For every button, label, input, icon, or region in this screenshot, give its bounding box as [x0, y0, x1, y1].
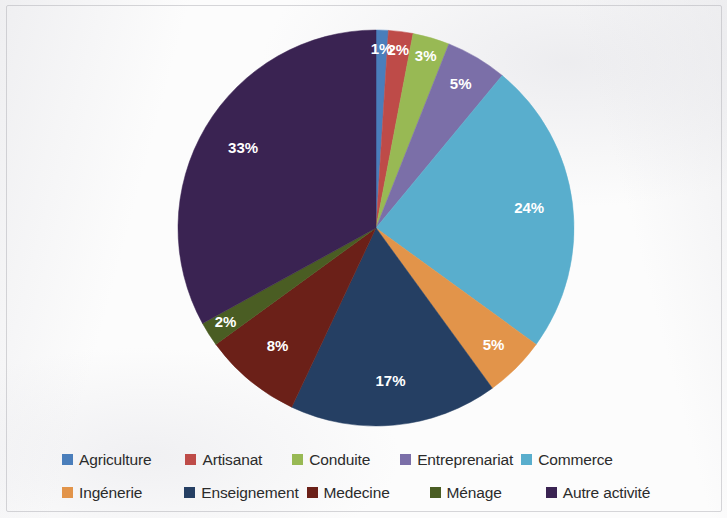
legend-swatch-icon [184, 487, 195, 498]
pie-data-label: 24% [514, 199, 544, 216]
legend-label: Ménage [447, 484, 502, 502]
legend-label: Medecine [324, 484, 390, 502]
legend-item-entreprenariat[interactable]: Entreprenariat [400, 451, 513, 469]
legend-item-enseignement[interactable]: Enseignement [184, 484, 298, 502]
legend-label: Agriculture [79, 451, 151, 469]
legend-item-menage[interactable]: Ménage [430, 484, 502, 502]
legend-item-conduite[interactable]: Conduite [292, 451, 370, 469]
legend-row: Agriculture Artisanat Conduite Entrepren… [0, 443, 727, 476]
pie-chart-area: 1%2%3%5%24%5%17%8%2%33% [0, 0, 727, 440]
legend-label: Autre activité [563, 484, 651, 502]
pie-chart-svg: 1%2%3%5%24%5%17%8%2%33% [0, 0, 727, 440]
pie-data-label: 5% [450, 75, 472, 92]
legend-row: Ingénerie Enseignement Medecine Ménage A… [0, 476, 727, 509]
pie-data-label: 3% [415, 47, 437, 64]
legend-swatch-icon [185, 454, 196, 465]
legend-label: Commerce [538, 451, 613, 469]
legend-item-commerce[interactable]: Commerce [521, 451, 613, 469]
legend-swatch-icon [62, 454, 73, 465]
legend-swatch-icon [400, 454, 411, 465]
pie-data-label: 2% [387, 41, 409, 58]
chart-legend: Agriculture Artisanat Conduite Entrepren… [0, 443, 727, 518]
legend-label: Enseignement [201, 484, 298, 502]
legend-label: Artisanat [202, 451, 262, 469]
pie-slice-group [178, 30, 574, 426]
legend-item-ingenerie[interactable]: Ingénerie [62, 484, 142, 502]
legend-swatch-icon [292, 454, 303, 465]
legend-label: Ingénerie [79, 484, 142, 502]
legend-swatch-icon [62, 487, 73, 498]
pie-data-label: 33% [228, 139, 258, 156]
legend-swatch-icon [546, 487, 557, 498]
legend-item-artisanat[interactable]: Artisanat [185, 451, 262, 469]
legend-item-agriculture[interactable]: Agriculture [62, 451, 151, 469]
legend-swatch-icon [307, 487, 318, 498]
legend-label: Entreprenariat [417, 451, 513, 469]
legend-item-autre-activite[interactable]: Autre activité [546, 484, 651, 502]
pie-data-label: 8% [267, 337, 289, 354]
pie-data-label: 5% [483, 336, 505, 353]
legend-swatch-icon [430, 487, 441, 498]
pie-data-label: 17% [375, 372, 405, 389]
legend-label: Conduite [309, 451, 370, 469]
pie-data-label: 2% [215, 313, 237, 330]
legend-item-medecine[interactable]: Medecine [307, 484, 390, 502]
scanned-page: 1%2%3%5%24%5%17%8%2%33% Agriculture Arti… [0, 0, 727, 518]
legend-swatch-icon [521, 454, 532, 465]
